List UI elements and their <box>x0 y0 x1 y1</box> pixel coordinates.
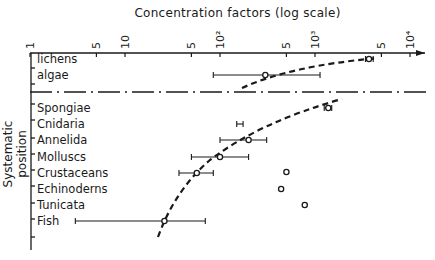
data-point <box>302 202 307 207</box>
axes <box>30 50 430 250</box>
category-labels: lichensalgaeSpongiaeCnidariaAnnelidaMoll… <box>36 52 108 228</box>
x-tick-label: 10² <box>214 31 227 49</box>
data-point <box>162 218 167 223</box>
category-label: Echinoderns <box>37 182 108 196</box>
x-tick-label: 10⁴ <box>404 30 417 49</box>
x-tick-label: 5 <box>375 42 388 49</box>
x-axis-arrow-icon <box>416 50 425 56</box>
data-point <box>366 56 371 61</box>
data-point <box>326 105 331 110</box>
x-tick-label: 10 <box>119 35 132 49</box>
category-label: algae <box>37 68 69 82</box>
category-label: Crustaceans <box>37 166 108 180</box>
category-label: Cnidaria <box>37 117 85 131</box>
data-point <box>246 137 251 142</box>
category-label: lichens <box>37 52 77 66</box>
category-label: Fish <box>37 214 59 228</box>
chart-plot: 1510510²510³510⁴ lichensalgaeSpongiaeCni… <box>0 0 435 260</box>
plants-trend-curve <box>242 58 378 88</box>
data-point <box>284 169 289 174</box>
data-point <box>263 72 268 77</box>
trend-curves <box>158 58 378 237</box>
category-label: Annelida <box>37 133 87 147</box>
x-tick-label: 5 <box>90 42 103 49</box>
category-label: Spongiae <box>37 101 91 115</box>
data-points <box>75 56 373 224</box>
x-tick-label: 5 <box>185 42 198 49</box>
data-point <box>217 154 222 159</box>
category-label: Molluscs <box>37 150 86 164</box>
category-label: Tunicata <box>36 198 85 212</box>
animals-trend-curve <box>158 99 342 237</box>
data-point <box>279 186 284 191</box>
x-tick-label: 5 <box>280 42 293 49</box>
data-point <box>194 170 199 175</box>
x-tick-label: 1 <box>24 42 37 49</box>
x-tick-label: 10³ <box>309 31 322 49</box>
